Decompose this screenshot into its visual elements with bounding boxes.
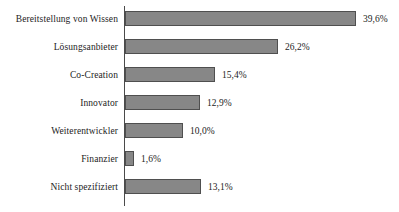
bar-row: Lösungsanbieter26,2%: [0, 39, 399, 55]
category-label: Nicht spezifiziert: [0, 179, 118, 195]
bar-value-label: 1,6%: [141, 151, 161, 167]
bar-value-label: 15,4%: [222, 67, 247, 83]
bar-row: Nicht spezifiziert13,1%: [0, 179, 399, 195]
bar: [125, 179, 201, 194]
bar-value-label: 13,1%: [208, 179, 233, 195]
category-label: Finanzier: [0, 151, 118, 167]
bar: [125, 11, 356, 26]
bar-row: Innovator12,9%: [0, 95, 399, 111]
bar-chart: Bereitstellung von Wissen39,6%Lösungsanb…: [0, 0, 399, 212]
bar-row: Co-Creation15,4%: [0, 67, 399, 83]
category-label: Weiterentwickler: [0, 123, 118, 139]
bar: [125, 123, 183, 138]
bar-value-label: 26,2%: [285, 39, 310, 55]
category-label: Lösungsanbieter: [0, 39, 118, 55]
bar-value-label: 12,9%: [207, 95, 232, 111]
bar-value-label: 10,0%: [190, 123, 215, 139]
category-label: Bereitstellung von Wissen: [0, 11, 118, 27]
bar-value-label: 39,6%: [363, 11, 388, 27]
bar-row: Weiterentwickler10,0%: [0, 123, 399, 139]
bar: [125, 151, 134, 166]
bar: [125, 39, 278, 54]
bar-row: Finanzier1,6%: [0, 151, 399, 167]
bar-row: Bereitstellung von Wissen39,6%: [0, 11, 399, 27]
plot-area: Bereitstellung von Wissen39,6%Lösungsanb…: [0, 0, 399, 212]
bar: [125, 95, 200, 110]
bar: [125, 67, 215, 82]
category-label: Innovator: [0, 95, 118, 111]
category-label: Co-Creation: [0, 67, 118, 83]
